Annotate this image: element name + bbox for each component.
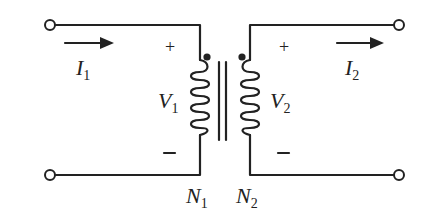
secondary-top-terminal — [394, 20, 404, 30]
v1-label: V1 — [158, 88, 178, 116]
secondary-plus: + — [279, 37, 289, 57]
primary-dot-icon — [203, 53, 210, 60]
primary-top-terminal — [45, 20, 55, 30]
v2-label: V2 — [270, 88, 290, 116]
primary-bottom-terminal — [45, 170, 55, 180]
primary-coil — [191, 60, 209, 135]
primary-plus: + — [165, 37, 175, 57]
secondary-bottom-terminal — [394, 170, 404, 180]
primary-bottom-wire — [55, 135, 200, 175]
secondary-bottom-wire — [250, 135, 394, 175]
secondary-dot-icon — [238, 53, 245, 60]
n1-label: N1 — [185, 183, 208, 211]
i1-label: I1 — [75, 55, 90, 83]
i1-arrow-head — [100, 37, 114, 49]
secondary-coil — [241, 60, 259, 135]
transformer-diagram: + + I1 I2 V1 V2 N1 N2 — [0, 0, 431, 224]
i2-label: I2 — [344, 55, 359, 83]
i2-arrow-head — [370, 37, 384, 49]
n2-label: N2 — [235, 183, 258, 211]
